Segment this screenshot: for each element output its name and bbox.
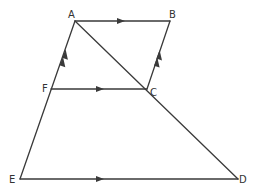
label-a: A bbox=[68, 9, 75, 20]
arrow-ab-icon bbox=[117, 18, 125, 24]
double-arrow-cb-icon bbox=[154, 50, 162, 68]
label-c: C bbox=[150, 87, 157, 98]
geometry-diagram: A B C F E D bbox=[0, 0, 258, 195]
segment-ad bbox=[75, 21, 238, 179]
arrow-ed-icon bbox=[96, 176, 104, 182]
label-d: D bbox=[239, 174, 247, 185]
label-e: E bbox=[9, 174, 15, 185]
label-f: F bbox=[42, 83, 48, 94]
arrow-fc-icon bbox=[96, 86, 104, 92]
segment-ea bbox=[20, 21, 75, 179]
label-b: B bbox=[169, 9, 176, 20]
